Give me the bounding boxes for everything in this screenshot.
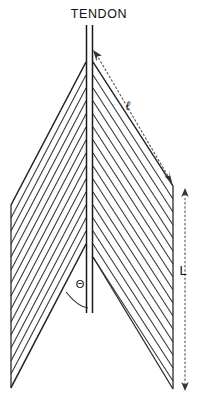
right-wing-fibers <box>93 62 173 381</box>
left-wing-fibers <box>11 62 86 387</box>
fiber-length-label: ℓ <box>125 98 131 113</box>
fiber-arrowhead-top <box>93 50 102 62</box>
muscle-length-label: L <box>179 263 186 278</box>
pennation-angle-arc <box>66 292 88 308</box>
fiber-length-arrow <box>93 50 173 184</box>
central-tendon <box>87 25 93 313</box>
pennation-angle-label: Θ <box>76 278 85 290</box>
fiber-arrowhead-bottom <box>165 171 173 184</box>
muscle-length-arrow <box>181 188 189 391</box>
right-wing-outline <box>93 62 173 389</box>
bipennate-muscle-diagram: TENDON ℓ L Θ <box>0 0 198 402</box>
tendon-title: TENDON <box>71 7 127 21</box>
